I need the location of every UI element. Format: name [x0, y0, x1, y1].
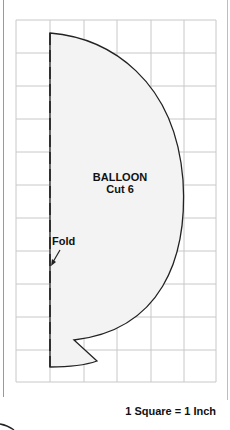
pattern-title: BALLOON	[80, 171, 160, 183]
page-curl	[0, 424, 14, 430]
fold-label: Fold	[52, 235, 75, 247]
scale-label: 1 Square = 1 Inch	[125, 405, 216, 417]
pattern-subtitle: Cut 6	[80, 183, 160, 195]
pattern-diagram	[0, 0, 230, 430]
pattern-title-block: BALLOON Cut 6	[80, 171, 160, 195]
